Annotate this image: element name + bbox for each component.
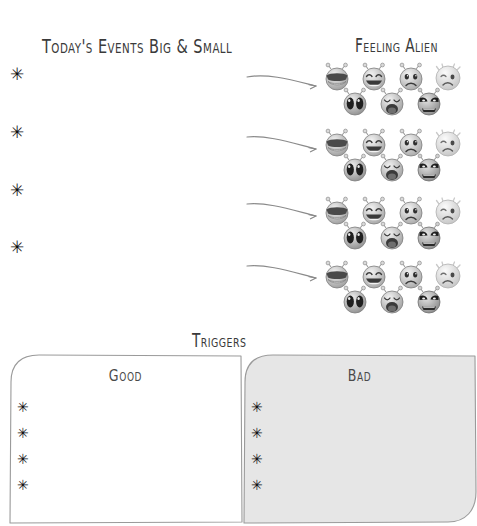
crying-alien-face[interactable]	[377, 153, 407, 183]
connector-arrow-2	[246, 131, 332, 157]
angry-alien-face[interactable]	[414, 221, 444, 251]
triggers-section-title: Triggers	[192, 329, 246, 351]
alien-face-row	[340, 87, 460, 117]
alien-face-group-4	[322, 260, 474, 318]
trigger-bad-bullet-4[interactable]: ✳	[251, 478, 263, 492]
events-write-area-1[interactable]	[28, 60, 238, 86]
connector-arrow-1	[246, 68, 332, 94]
trigger-good-bullet-3[interactable]: ✳	[17, 452, 29, 466]
angry-alien-face[interactable]	[414, 87, 444, 117]
alien-face-group-2	[322, 128, 474, 186]
angry-alien-face[interactable]	[414, 153, 444, 183]
trigger-good-bullet-2[interactable]: ✳	[17, 426, 29, 440]
alien-face-row	[340, 221, 460, 251]
connector-arrow-4	[246, 260, 332, 286]
alien-face-group-3	[322, 196, 474, 254]
alien-face-row	[340, 285, 460, 315]
alien-face-group-1	[322, 62, 474, 120]
alien-face-row	[340, 153, 460, 183]
shocked-alien-face[interactable]	[340, 153, 370, 183]
trigger-box-bad[interactable]: Bad ✳ ✳ ✳ ✳	[242, 352, 477, 524]
trigger-bad-bullet-1[interactable]: ✳	[251, 400, 263, 414]
events-bullet-marker-4[interactable]: ✳	[10, 239, 24, 256]
shocked-alien-face[interactable]	[340, 285, 370, 315]
trigger-box-good[interactable]: Good ✳ ✳ ✳ ✳	[8, 352, 243, 524]
trigger-good-bullet-1[interactable]: ✳	[17, 400, 29, 414]
trigger-bad-bullet-3[interactable]: ✳	[251, 452, 263, 466]
shocked-alien-face[interactable]	[340, 87, 370, 117]
events-write-area-4[interactable]	[28, 233, 238, 259]
angry-alien-face[interactable]	[414, 285, 444, 315]
crying-alien-face[interactable]	[377, 87, 407, 117]
shocked-alien-face[interactable]	[340, 221, 370, 251]
trigger-bad-bullet-2[interactable]: ✳	[251, 426, 263, 440]
trigger-good-label: Good	[8, 366, 243, 385]
connector-arrow-3	[246, 198, 332, 224]
alien-section-title: Feeling alien	[355, 34, 438, 56]
events-bullet-marker-2[interactable]: ✳	[10, 124, 24, 141]
events-write-area-2[interactable]	[28, 118, 238, 144]
crying-alien-face[interactable]	[377, 285, 407, 315]
events-write-area-3[interactable]	[28, 176, 238, 202]
crying-alien-face[interactable]	[377, 221, 407, 251]
events-section-title: Today's Events Big & Small	[42, 34, 232, 58]
trigger-good-bullet-4[interactable]: ✳	[17, 478, 29, 492]
events-bullet-marker-1[interactable]: ✳	[10, 66, 24, 83]
events-bullet-marker-3[interactable]: ✳	[10, 182, 24, 199]
trigger-bad-label: Bad	[242, 366, 477, 385]
